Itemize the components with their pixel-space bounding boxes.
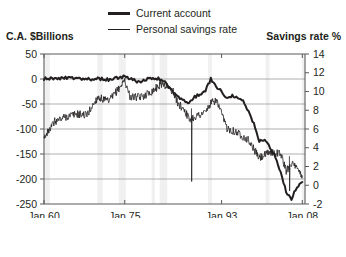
right-axis-tick-labels: 14121086420-2: [313, 48, 325, 210]
left-tick-label: -50: [22, 98, 37, 110]
right-tick-label: 8: [313, 104, 319, 116]
legend-label-current-account: Current account: [136, 7, 211, 19]
left-tick-label: 0: [31, 73, 37, 85]
right-tick-label: 4: [313, 141, 319, 153]
chart-container: Current account Personal savings rate C.…: [0, 0, 346, 257]
right-tick-label: 10: [313, 85, 325, 97]
x-tick-label: Jan 60: [28, 210, 60, 218]
data-series: [44, 76, 302, 200]
right-tick-label: 12: [313, 66, 325, 78]
left-axis-tick-labels: 500-50-100-150-200-250: [16, 48, 37, 210]
savings-rate-spike: [289, 156, 290, 191]
right-tick-label: 6: [313, 123, 319, 135]
legend-swatch-current-account: [108, 12, 130, 15]
legend-item-personal-savings-rate: Personal savings rate: [108, 22, 278, 36]
legend-item-current-account: Current account: [108, 6, 278, 20]
left-tick-label: -150: [16, 148, 37, 160]
right-axis-title: Savings rate %: [266, 30, 341, 42]
x-tick-label: Jan 08: [287, 210, 319, 218]
legend-label-personal-savings-rate: Personal savings rate: [136, 23, 237, 35]
x-tick-label: Jan 75: [109, 210, 141, 218]
x-tick-label: Jan 93: [206, 210, 238, 218]
right-tick-label: 2: [313, 160, 319, 172]
right-tick-label: 0: [313, 179, 319, 191]
chart-legend: Current account Personal savings rate: [108, 6, 278, 38]
left-axis-title: C.A. $Billions: [6, 30, 74, 42]
right-tick-label: -2: [313, 198, 322, 210]
legend-swatch-personal-savings-rate: [108, 29, 130, 30]
left-tick-label: -100: [16, 123, 37, 135]
plot-area: 500-50-100-150-200-250 14121086420-2 Jan…: [0, 48, 346, 218]
left-tick-label: -250: [16, 198, 37, 210]
left-tick-label: 50: [25, 48, 37, 60]
x-axis-tick-labels: Jan 60Jan 75Jan 93Jan 08: [28, 210, 318, 218]
chart-svg: 500-50-100-150-200-250 14121086420-2 Jan…: [0, 48, 346, 218]
series-line-personal-savings-rate: [44, 78, 302, 178]
right-tick-label: 14: [313, 48, 325, 60]
left-tick-label: -200: [16, 173, 37, 185]
